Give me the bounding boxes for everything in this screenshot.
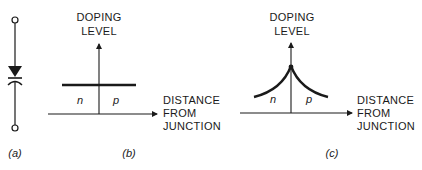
junction-peak-dot	[289, 65, 294, 70]
panel-c: DOPING LEVEL n p DISTANCE FROM JUNCTION …	[240, 11, 415, 159]
y-axis-label-line1: DOPING	[76, 11, 121, 23]
p-region-label: p	[112, 94, 119, 106]
panel-b: DOPING LEVEL n p DISTANCE FROM JUNCTION …	[48, 11, 221, 159]
caption-c: (c)	[326, 147, 339, 159]
x-axis-label-line3: JUNCTION	[163, 120, 221, 132]
varactor-diode-icon	[8, 17, 22, 131]
x-axis-label-line1: DISTANCE	[163, 94, 220, 106]
n-region-label: n	[270, 93, 276, 105]
p-region-label: p	[305, 93, 312, 105]
caption-a: (a)	[8, 147, 22, 159]
y-axis-label-line2: LEVEL	[274, 25, 310, 37]
y-axis-label-line2: LEVEL	[81, 25, 117, 37]
y-axis-label-line1: DOPING	[269, 11, 314, 23]
x-axis-label-line3: JUNCTION	[357, 120, 415, 132]
x-axis-label-line1: DISTANCE	[357, 94, 414, 106]
panel-a: (a)	[8, 17, 22, 159]
varactor-doping-figure: (a) DOPING LEVEL n p DISTANCE FROM JUNCT…	[0, 0, 422, 170]
caption-b: (b)	[122, 147, 136, 159]
x-axis-label-line2: FROM	[163, 107, 197, 119]
n-region-label: n	[77, 94, 83, 106]
x-axis-label-line2: FROM	[357, 107, 391, 119]
